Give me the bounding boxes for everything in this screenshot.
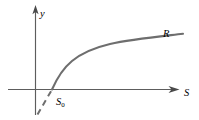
y-axis-group xyxy=(32,5,38,115)
coordinate-plot-svg xyxy=(0,0,199,120)
dashed-curve-extension xyxy=(38,90,53,115)
figure-container: y S S0 R xyxy=(0,0,199,120)
x-axis-label: S xyxy=(184,82,189,100)
curve-label-R: R xyxy=(163,23,169,41)
curve-R xyxy=(52,34,183,90)
point-s0-label: S0 xyxy=(56,91,65,109)
y-axis-label: y xyxy=(40,3,45,21)
x-axis-group xyxy=(8,86,180,93)
